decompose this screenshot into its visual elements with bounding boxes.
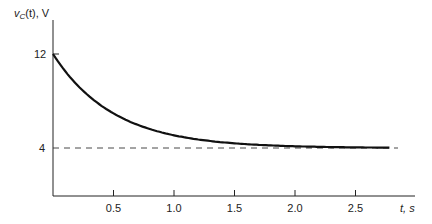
voltage-curve bbox=[53, 54, 389, 148]
x-axis-label: t, s bbox=[400, 202, 415, 214]
x-tick-label: 2.5 bbox=[348, 202, 363, 214]
y-tick-label-4: 4 bbox=[39, 142, 45, 154]
x-tick-label: 0.5 bbox=[106, 202, 121, 214]
x-tick-label: 1.5 bbox=[227, 202, 242, 214]
y-tick-label-12: 12 bbox=[34, 48, 46, 60]
x-tick-label: 1.0 bbox=[166, 202, 181, 214]
y-axis-label: vC(t), V bbox=[14, 7, 50, 21]
chart: 0.51.01.52.02.5 vC(t), V 12 4 t, s bbox=[0, 0, 432, 224]
x-tick-label: 2.0 bbox=[287, 202, 302, 214]
